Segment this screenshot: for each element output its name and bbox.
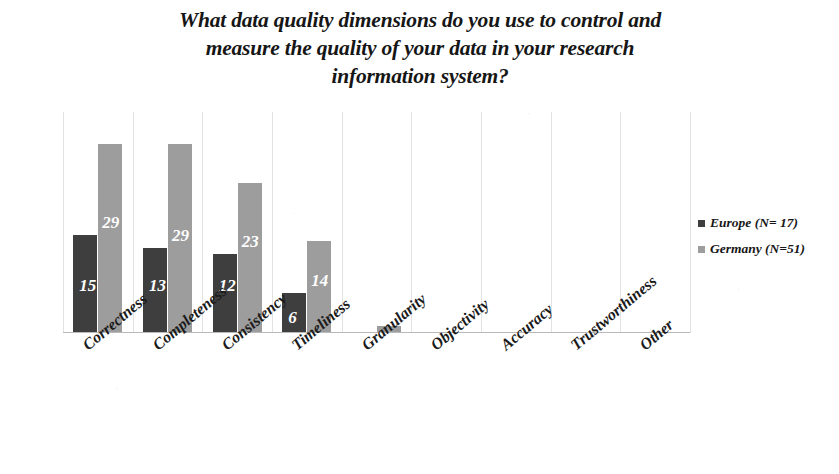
x-axis-category-labels: CorrectnessCompletenessConsistencyTimeli… xyxy=(0,333,839,474)
bar-value-label: 29 xyxy=(172,227,189,244)
bar-group xyxy=(481,112,551,332)
bar-germany[interactable] xyxy=(98,144,122,332)
bar-value-label: 14 xyxy=(311,272,328,289)
bar-value-label: 29 xyxy=(102,214,119,231)
legend-swatch-europe xyxy=(698,220,705,227)
gridline-vertical xyxy=(690,112,691,333)
bar-value-label: 15 xyxy=(79,277,96,294)
bar-group xyxy=(551,112,621,332)
plot-area: 152913291223614 xyxy=(63,112,690,333)
bar-group: 1529 xyxy=(63,112,133,332)
bar-value-label: 6 xyxy=(288,309,297,326)
legend-label: Germany (N=51) xyxy=(710,242,805,256)
chart-legend: Europe (N= 17)Germany (N=51) xyxy=(698,212,838,264)
legend-label: Europe (N= 17) xyxy=(710,216,798,230)
legend-item[interactable]: Europe (N= 17) xyxy=(698,212,838,234)
legend-swatch-germany xyxy=(698,246,705,253)
legend-item[interactable]: Germany (N=51) xyxy=(698,238,838,260)
bar-value-label: 23 xyxy=(242,233,259,250)
bar-value-label: 13 xyxy=(149,277,166,294)
bar-group xyxy=(342,112,412,332)
page-title: What data quality dimensions do you use … xyxy=(90,6,750,90)
